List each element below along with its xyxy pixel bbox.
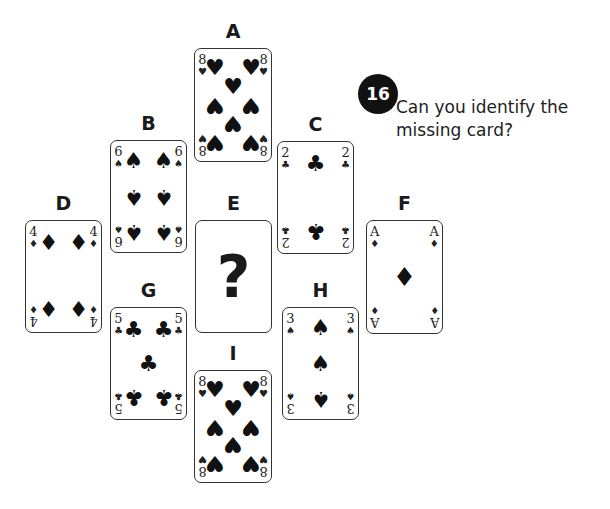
card-corner: 5♣	[114, 312, 123, 336]
card-slot-b: B 6♠ 6♠ 6♠ 6♠ ♠ ♠ ♠ ♠ ♠ ♠	[110, 140, 187, 253]
puzzle-number-badge: 16	[358, 74, 398, 114]
spade-icon: ♠	[311, 317, 331, 339]
spade-icon: ♠	[174, 159, 183, 169]
spade-icon: ♠	[346, 326, 355, 336]
diamond-icon: ♦	[29, 239, 38, 249]
question-line-2: missing card?	[396, 119, 606, 142]
club-icon: ♣	[341, 160, 350, 170]
spade-icon: ♠	[311, 388, 331, 410]
card-corner: 6♠	[114, 224, 123, 248]
card-corner: 5♣	[114, 391, 123, 415]
club-icon: ♣	[114, 326, 123, 336]
club-icon: ♣	[124, 319, 144, 341]
card-label-a: A	[194, 20, 272, 42]
card-slot-d: D 4♦ 4♦ 4♦ 4♦ ♦ ♦ ♦ ♦	[25, 220, 102, 333]
spade-icon: ♠	[346, 391, 355, 401]
card-label-c: C	[277, 113, 354, 135]
club-icon: ♣	[154, 386, 174, 408]
club-icon: ♣	[124, 386, 144, 408]
club-icon: ♣	[154, 319, 174, 341]
card-slot-a: A 8♥ 8♥ 8♥ 8♥ ♥ ♥ ♥ ♥ ♥ ♥ ♥ ♥	[194, 48, 272, 162]
spade-icon: ♠	[124, 150, 144, 172]
card-corner: 3♠	[286, 391, 295, 415]
heart-icon: ♥	[205, 416, 225, 438]
card-corner: A♦	[430, 225, 439, 249]
spade-icon: ♠	[174, 224, 183, 234]
club-icon: ♣	[341, 225, 350, 235]
heart-icon: ♥	[205, 57, 225, 79]
missing-card-e[interactable]: ?	[195, 220, 272, 333]
card-corner: 3♠	[286, 312, 295, 336]
card-corner: A♦	[430, 305, 439, 329]
heart-icon: ♥	[205, 452, 225, 474]
club-icon: ♣	[306, 153, 326, 175]
playing-card-f[interactable]: A♦ A♦ A♦ A♦ ♦	[366, 220, 443, 334]
card-corner: 2♣	[281, 146, 290, 170]
card-label-i: I	[194, 342, 272, 364]
heart-icon: ♥	[205, 94, 225, 116]
question-mark-icon: ?	[196, 221, 271, 332]
club-icon: ♣	[174, 391, 183, 401]
heart-icon: ♥	[241, 452, 261, 474]
card-slot-e: E ?	[195, 220, 272, 333]
heart-icon: ♥	[223, 76, 243, 98]
card-label-g: G	[110, 279, 187, 301]
club-icon: ♣	[114, 391, 123, 401]
card-corner: 3♠	[346, 312, 355, 336]
spade-icon: ♠	[286, 391, 295, 401]
playing-card-i[interactable]: 8♥ 8♥ 8♥ 8♥ ♥ ♥ ♥ ♥ ♥ ♥ ♥ ♥	[194, 370, 272, 483]
card-corner: 4♦	[29, 304, 38, 328]
heart-icon: ♥	[241, 94, 261, 116]
heart-icon: ♥	[241, 57, 261, 79]
playing-card-b[interactable]: 6♠ 6♠ 6♠ 6♠ ♠ ♠ ♠ ♠ ♠ ♠	[110, 140, 187, 253]
card-corner: 2♣	[281, 225, 290, 249]
spade-icon: ♠	[311, 353, 331, 375]
card-slot-f: F A♦ A♦ A♦ A♦ ♦	[366, 220, 443, 334]
heart-icon: ♥	[223, 433, 243, 455]
diamond-icon: ♦	[430, 239, 439, 249]
spade-icon: ♠	[154, 186, 174, 208]
playing-card-a[interactable]: 8♥ 8♥ 8♥ 8♥ ♥ ♥ ♥ ♥ ♥ ♥ ♥ ♥	[194, 48, 272, 162]
diamond-icon: ♦	[370, 239, 379, 249]
diamond-icon: ♦	[430, 305, 439, 315]
spade-icon: ♠	[154, 150, 174, 172]
diamond-icon: ♦	[29, 304, 38, 314]
playing-card-g[interactable]: 5♣ 5♣ 5♣ 5♣ ♣ ♣ ♣ ♣ ♣	[110, 307, 187, 420]
spade-icon: ♠	[124, 186, 144, 208]
club-icon: ♣	[174, 326, 183, 336]
puzzle-number: 16	[366, 84, 390, 104]
card-corner: A♦	[370, 225, 379, 249]
card-label-h: H	[282, 279, 359, 301]
heart-icon: ♥	[205, 131, 225, 153]
heart-icon: ♥	[223, 398, 243, 420]
spade-icon: ♠	[124, 221, 144, 243]
playing-card-c[interactable]: 2♣ 2♣ 2♣ 2♣ ♣ ♣	[277, 141, 354, 254]
card-label-d: D	[25, 192, 102, 214]
card-corner: 4♦	[89, 304, 98, 328]
card-corner: 4♦	[29, 225, 38, 249]
card-corner: 2♣	[341, 146, 350, 170]
card-label-e: E	[195, 192, 272, 214]
club-icon: ♣	[306, 220, 326, 242]
diamond-icon: ♦	[39, 232, 59, 254]
spade-icon: ♠	[114, 224, 123, 234]
card-corner: 4♦	[89, 225, 98, 249]
diamond-icon: ♦	[39, 299, 59, 321]
diamond-icon: ♦	[89, 304, 98, 314]
card-slot-h: H 3♠ 3♠ 3♠ 3♠ ♠ ♠ ♠	[282, 307, 359, 420]
diamond-icon: ♦	[69, 299, 89, 321]
card-corner: 6♠	[174, 145, 183, 169]
spade-icon: ♠	[154, 221, 174, 243]
club-icon: ♣	[139, 353, 159, 375]
card-corner: A♦	[370, 305, 379, 329]
card-corner: 5♣	[174, 391, 183, 415]
card-label-b: B	[110, 112, 187, 134]
playing-card-h[interactable]: 3♠ 3♠ 3♠ 3♠ ♠ ♠ ♠	[282, 307, 359, 420]
spade-icon: ♠	[286, 326, 295, 336]
diamond-icon: ♦	[393, 264, 416, 290]
heart-icon: ♥	[241, 416, 261, 438]
puzzle-question: Can you identify the missing card?	[396, 96, 606, 142]
card-corner: 2♣	[341, 225, 350, 249]
playing-card-d[interactable]: 4♦ 4♦ 4♦ 4♦ ♦ ♦ ♦ ♦	[25, 220, 102, 333]
card-corner: 6♠	[174, 224, 183, 248]
